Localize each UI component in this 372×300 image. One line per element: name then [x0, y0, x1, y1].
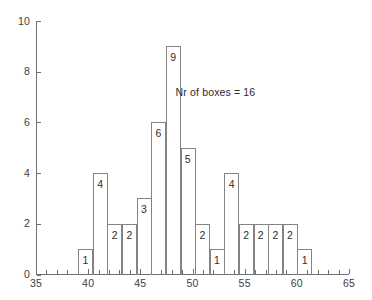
- x-tick-36: [46, 270, 47, 274]
- bar-value-label: 2: [272, 230, 278, 241]
- histogram-bar: [166, 46, 181, 275]
- x-tick-38: [67, 270, 68, 274]
- histogram-bar: [151, 122, 166, 275]
- y-tick-label-6: 6: [0, 117, 30, 128]
- bar-value-label: 2: [126, 230, 132, 241]
- y-tick-label-10: 10: [0, 16, 30, 27]
- x-tick-label-65: 65: [334, 277, 364, 290]
- x-tick-label-40: 40: [73, 277, 103, 290]
- y-tick-label-2: 2: [0, 218, 30, 229]
- y-tick-4: [37, 173, 41, 174]
- x-tick-label-45: 45: [125, 277, 155, 290]
- y-tick-0: [37, 275, 41, 276]
- x-tick-64: [339, 270, 340, 274]
- bar-value-label: 1: [83, 255, 89, 266]
- y-axis-line: [36, 21, 37, 275]
- y-tick-label-4: 4: [0, 168, 30, 179]
- bar-value-label: 1: [214, 255, 220, 266]
- y-tick-label-8: 8: [0, 66, 30, 77]
- bar-value-label: 4: [229, 179, 235, 190]
- chart-annotation-text: Nr of boxes = 16: [176, 86, 256, 98]
- x-tick-label-35: 35: [21, 277, 51, 290]
- bar-value-label: 5: [185, 154, 191, 165]
- bar-value-label: 6: [156, 128, 162, 139]
- bar-value-label: 2: [199, 230, 205, 241]
- bar-value-label: 9: [170, 52, 176, 63]
- x-tick-label-50: 50: [178, 277, 208, 290]
- bar-value-label: 2: [287, 230, 293, 241]
- bar-value-label: 1: [302, 255, 308, 266]
- x-tick-63: [328, 270, 329, 274]
- y-tick-6: [37, 122, 41, 123]
- x-tick-label-60: 60: [282, 277, 312, 290]
- histogram-bar: [181, 148, 196, 275]
- x-tick-label-55: 55: [230, 277, 260, 290]
- y-tick-2: [37, 224, 41, 225]
- histogram-chart: 0246810 35404550556065 1422369521422221 …: [0, 0, 372, 300]
- x-tick-37: [57, 270, 58, 274]
- y-tick-8: [37, 72, 41, 73]
- bar-value-label: 2: [112, 230, 118, 241]
- y-tick-10: [37, 21, 41, 22]
- bar-value-label: 4: [97, 179, 103, 190]
- x-tick-62: [318, 270, 319, 274]
- bar-value-label: 2: [258, 230, 264, 241]
- bar-value-label: 2: [243, 230, 249, 241]
- x-tick-65: [349, 269, 350, 274]
- bar-value-label: 3: [141, 204, 147, 215]
- x-tick-35: [36, 269, 37, 274]
